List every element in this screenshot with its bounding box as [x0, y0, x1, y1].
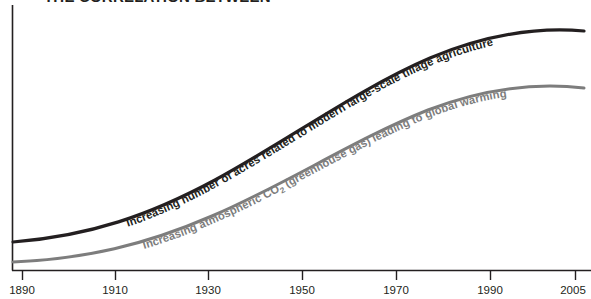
x-axis-tick-labels: 1890 1910 1930 1950 1970 1990 2005: [9, 284, 586, 296]
series-label-co2-part1: Increasing atmospheric CO: [141, 182, 281, 251]
x-tick-label-1910: 1910: [102, 284, 128, 296]
x-tick-label-1950: 1950: [289, 284, 315, 296]
series-label-co2-part2: (greenhouse gas) leading to global warmi…: [280, 87, 508, 191]
chart-plot-area: 1890 1910 1930 1950 1970 1990 2005 Incre…: [0, 0, 591, 299]
x-axis-ticks: [23, 271, 576, 281]
x-tick-label-1890: 1890: [9, 284, 35, 296]
x-tick-label-1990: 1990: [477, 284, 503, 296]
series-label-acres-text: Increasing number of acres related to mo…: [125, 36, 495, 229]
x-tick-label-2005: 2005: [560, 284, 586, 296]
x-tick-label-1930: 1930: [195, 284, 221, 296]
series-label-acres: Increasing number of acres related to mo…: [125, 36, 495, 229]
x-tick-label-1970: 1970: [383, 284, 409, 296]
chart-container: THE CORRELATION BETWEEN 1890 1910 1930 1…: [0, 0, 591, 299]
